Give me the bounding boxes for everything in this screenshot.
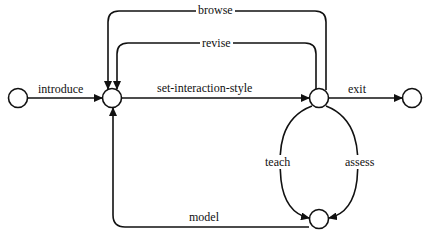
node-start [9,89,28,108]
label-assess: assess [343,155,376,169]
node-hub [103,89,122,108]
label-browse: browse [196,3,235,17]
label-exit: exit [346,82,368,96]
label-introduce: introduce [36,82,85,96]
label-model: model [187,210,221,224]
node-tutor [310,210,329,229]
state-diagram: introduce set-interaction-style exit bro… [0,0,435,243]
label-teach: teach [263,155,292,169]
label-revise: revise [200,36,233,50]
label-set-interaction-style: set-interaction-style [155,81,254,95]
node-style [310,89,329,108]
node-exit [403,89,422,108]
edge-browse [108,11,326,90]
